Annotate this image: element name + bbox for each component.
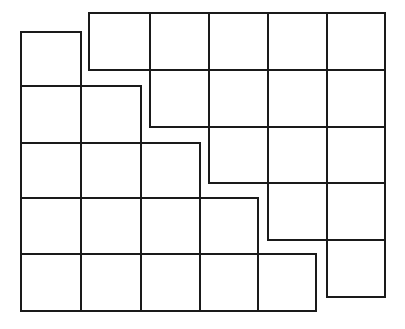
grid-cell-lower-r3-c1 — [21, 143, 81, 198]
grid-cell-lower-r4-c3 — [141, 198, 200, 254]
grid-cell-lower-r3-c3 — [141, 143, 200, 198]
grid-cell-upper-r2-c4 — [209, 70, 268, 127]
grid-cell-upper-r1-c2 — [89, 13, 150, 70]
grid-cell-upper-r1-c5 — [268, 13, 327, 70]
grid-cell-lower-r3-c2 — [81, 143, 141, 198]
grid-cell-upper-r2-c3 — [150, 70, 209, 127]
grid-cell-upper-r3-c4 — [209, 127, 268, 183]
grid-cell-lower-r5-c3 — [141, 254, 200, 311]
grid-cell-upper-r2-c6 — [327, 70, 385, 127]
grid-cell-upper-r4-c6 — [327, 183, 385, 240]
grid-cell-upper-r3-c5 — [268, 127, 327, 183]
grid-cell-upper-r2-c5 — [268, 70, 327, 127]
grid-cell-lower-r5-c5 — [258, 254, 316, 311]
grid-cell-lower-r4-c1 — [21, 198, 81, 254]
grid-cell-upper-r3-c6 — [327, 127, 385, 183]
grid-cell-lower-r4-c2 — [81, 198, 141, 254]
grid-cell-lower-r4-c4 — [200, 198, 258, 254]
grid-cell-upper-r1-c6 — [327, 13, 385, 70]
grid-cell-lower-r1-c1 — [21, 32, 81, 86]
grid-cell-lower-r2-c1 — [21, 86, 81, 143]
grid-cell-lower-r5-c2 — [81, 254, 141, 311]
grid-cell-lower-r5-c1 — [21, 254, 81, 311]
grid-cell-upper-r5-c6 — [327, 240, 385, 297]
grid-canvas — [0, 0, 405, 329]
grid-cell-upper-r4-c5 — [268, 183, 327, 240]
grid-cell-upper-r1-c4 — [209, 13, 268, 70]
grid-cell-upper-r1-c3 — [150, 13, 209, 70]
staircase-grid-figure — [0, 0, 405, 329]
grid-cell-lower-r2-c2 — [81, 86, 141, 143]
grid-cell-lower-r5-c4 — [200, 254, 258, 311]
